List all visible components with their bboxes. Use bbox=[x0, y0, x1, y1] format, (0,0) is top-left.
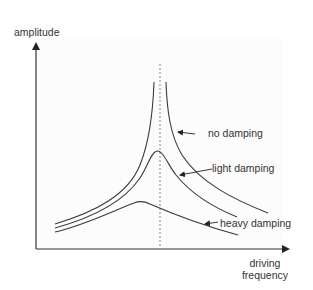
x-axis-label-line2: frequency bbox=[242, 269, 289, 281]
heavy-damping-pointer bbox=[205, 222, 218, 224]
curve-light-damping bbox=[55, 151, 237, 228]
curve-no-damping-right bbox=[166, 82, 268, 213]
label-no-damping: no damping bbox=[208, 127, 263, 139]
no-damping-pointer bbox=[178, 132, 195, 134]
x-axis-label-line1: driving bbox=[250, 257, 281, 269]
label-heavy-damping: heavy damping bbox=[220, 217, 291, 229]
label-light-damping: light damping bbox=[212, 162, 275, 174]
light-damping-pointer bbox=[180, 169, 212, 175]
curve-no-damping-left bbox=[55, 82, 154, 224]
resonance-diagram: amplitude driving frequency no damping l… bbox=[0, 0, 313, 290]
y-axis-label: amplitude bbox=[14, 26, 60, 38]
curve-heavy-damping bbox=[55, 202, 238, 235]
